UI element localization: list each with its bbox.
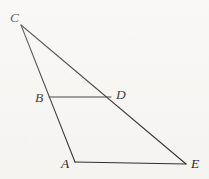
- vertex-label-C: C: [10, 10, 20, 25]
- segment-CE: [21, 25, 186, 164]
- vertex-label-E: E: [190, 156, 200, 171]
- vertex-label-A: A: [60, 156, 70, 171]
- geometry-figure: C B D A E: [0, 0, 209, 179]
- segment-group: [21, 25, 186, 164]
- vertex-label-B: B: [35, 90, 43, 105]
- segment-AE: [75, 162, 186, 164]
- figure-canvas: C B D A E: [0, 0, 209, 179]
- segment-CA: [21, 25, 75, 162]
- vertex-label-D: D: [115, 87, 126, 102]
- label-group: C B D A E: [10, 10, 200, 171]
